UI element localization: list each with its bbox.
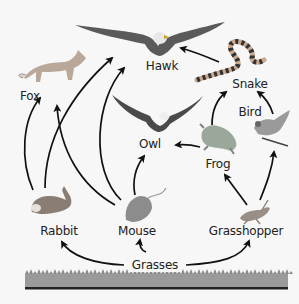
fox-icon xyxy=(19,50,86,82)
organism-label-rabbit: Rabbit xyxy=(40,225,78,238)
frog-icon xyxy=(200,124,236,154)
food-web-diagram: Hawk Fox Snake Owl Bird Frog Rabbit Mous… xyxy=(0,0,299,304)
rabbit-icon xyxy=(31,186,71,214)
mouse-icon xyxy=(126,188,166,222)
grass-icon xyxy=(25,269,293,290)
organism-label-grasshopper: Grasshopper xyxy=(209,225,283,238)
owl-icon xyxy=(112,95,203,132)
snake-icon xyxy=(197,42,264,80)
hawk-icon xyxy=(75,22,225,56)
organism-label-hawk: Hawk xyxy=(146,60,178,73)
organism-label-grasses: Grasses xyxy=(129,259,181,272)
organism-label-frog: Frog xyxy=(206,158,231,171)
organism-label-bird: Bird xyxy=(238,106,261,119)
organism-label-owl: Owl xyxy=(139,138,161,151)
organism-label-snake: Snake xyxy=(232,78,267,91)
organism-label-mouse: Mouse xyxy=(118,225,156,238)
grasshopper-icon xyxy=(240,200,270,224)
organism-label-fox: Fox xyxy=(20,90,40,103)
